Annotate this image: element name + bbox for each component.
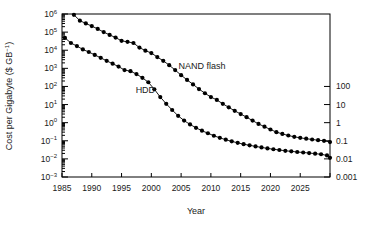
data-point bbox=[131, 41, 135, 45]
data-point bbox=[194, 126, 198, 130]
data-point bbox=[307, 151, 311, 155]
x-axis-tick-labels: 198519901995200020052010201520202025 bbox=[53, 183, 310, 193]
data-point bbox=[298, 136, 302, 140]
data-point bbox=[99, 56, 103, 60]
series-annotation: NAND flash bbox=[178, 61, 225, 71]
data-point bbox=[75, 44, 79, 48]
data-point bbox=[233, 109, 237, 113]
data-point bbox=[111, 62, 115, 66]
data-point bbox=[93, 53, 97, 57]
data-point bbox=[256, 122, 260, 126]
data-point bbox=[203, 91, 207, 95]
y-tick-label-right: 0.001 bbox=[336, 172, 358, 182]
data-point bbox=[262, 125, 266, 129]
y-tick-label-right: 0.1 bbox=[336, 136, 348, 146]
data-point bbox=[206, 131, 210, 135]
data-point bbox=[170, 108, 174, 112]
x-tick-label: 1995 bbox=[112, 183, 131, 193]
data-point bbox=[265, 146, 269, 150]
data-point bbox=[188, 122, 192, 126]
data-point bbox=[286, 133, 290, 137]
data-point bbox=[280, 132, 284, 136]
data-point bbox=[128, 69, 132, 73]
data-point bbox=[274, 130, 278, 134]
data-point bbox=[310, 137, 314, 141]
data-point bbox=[102, 30, 106, 34]
x-tick-label: 1985 bbox=[53, 183, 72, 193]
chart-background bbox=[0, 0, 384, 231]
data-point bbox=[242, 142, 246, 146]
cost-per-gigabyte-chart: 198519901995200020052010201520202025 10−… bbox=[0, 0, 384, 231]
data-point bbox=[140, 76, 144, 80]
data-point bbox=[87, 50, 91, 54]
data-point bbox=[182, 119, 186, 123]
data-point bbox=[289, 149, 293, 153]
x-tick-label: 2015 bbox=[231, 183, 250, 193]
data-point bbox=[218, 136, 222, 140]
data-point bbox=[158, 95, 162, 99]
x-tick-label: 1990 bbox=[82, 183, 101, 193]
data-point bbox=[134, 72, 138, 76]
data-point bbox=[271, 147, 275, 151]
data-point bbox=[212, 134, 216, 138]
series-annotation: HDD bbox=[136, 85, 156, 95]
data-point bbox=[239, 112, 243, 116]
data-point bbox=[146, 80, 150, 84]
data-point bbox=[248, 143, 252, 147]
data-point bbox=[304, 137, 308, 141]
data-point bbox=[116, 64, 120, 68]
data-point bbox=[173, 68, 177, 72]
data-point bbox=[250, 119, 254, 123]
data-point bbox=[221, 102, 225, 106]
data-point bbox=[122, 68, 126, 72]
y-tick-label-right: 10 bbox=[336, 100, 346, 110]
data-point bbox=[316, 138, 320, 142]
data-point bbox=[224, 138, 228, 142]
data-point bbox=[81, 47, 85, 51]
x-tick-label: 2000 bbox=[142, 183, 161, 193]
data-point bbox=[137, 45, 141, 49]
data-point bbox=[69, 41, 73, 45]
data-point bbox=[155, 55, 159, 59]
data-point bbox=[322, 139, 326, 143]
data-point bbox=[292, 135, 296, 139]
data-point bbox=[63, 36, 67, 40]
data-point bbox=[200, 129, 204, 133]
data-point bbox=[301, 150, 305, 154]
data-point bbox=[295, 150, 299, 154]
data-point bbox=[227, 105, 231, 109]
x-tick-label: 2010 bbox=[201, 183, 220, 193]
data-point bbox=[164, 102, 168, 106]
data-point bbox=[161, 59, 165, 63]
data-point bbox=[185, 78, 189, 82]
data-point bbox=[197, 87, 201, 91]
data-point bbox=[143, 49, 147, 53]
data-point bbox=[179, 73, 183, 77]
data-point bbox=[230, 139, 234, 143]
data-point bbox=[149, 51, 153, 55]
data-point bbox=[90, 24, 94, 28]
data-point bbox=[313, 152, 317, 156]
x-tick-label: 2005 bbox=[172, 183, 191, 193]
data-point bbox=[125, 40, 129, 44]
data-point bbox=[84, 21, 88, 25]
data-point bbox=[245, 115, 249, 119]
data-point bbox=[268, 127, 272, 131]
data-point bbox=[253, 144, 257, 148]
data-point bbox=[114, 35, 118, 39]
y-axis-title: Cost per Gigabyte ($ GB−1) bbox=[4, 42, 15, 150]
data-point bbox=[108, 33, 112, 37]
data-point bbox=[277, 148, 281, 152]
data-point bbox=[176, 114, 180, 118]
data-point bbox=[209, 95, 213, 99]
data-point bbox=[167, 63, 171, 67]
data-point bbox=[328, 156, 332, 160]
x-axis-title: Year bbox=[187, 206, 205, 216]
data-point bbox=[105, 59, 109, 63]
data-point bbox=[236, 141, 240, 145]
data-point bbox=[328, 140, 332, 144]
data-point bbox=[259, 145, 263, 149]
x-tick-label: 2025 bbox=[291, 183, 310, 193]
data-point bbox=[215, 98, 219, 102]
y-tick-label-right: 1 bbox=[336, 118, 341, 128]
